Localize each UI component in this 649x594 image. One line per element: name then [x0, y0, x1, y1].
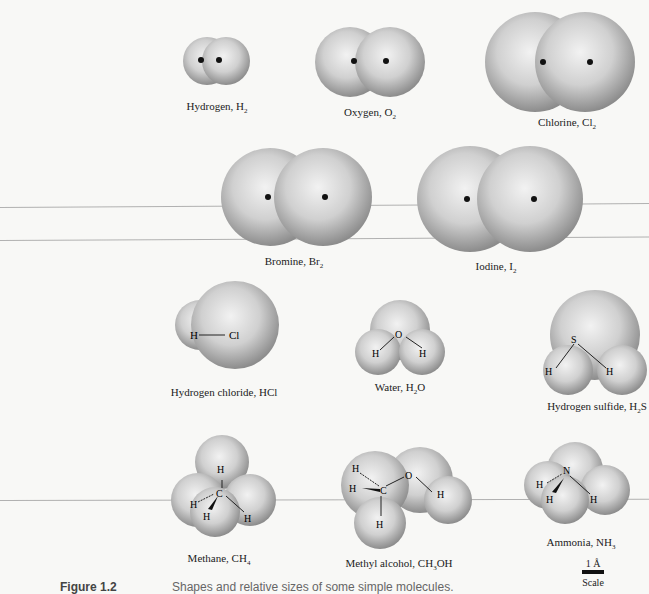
scale-indicator: 1 Å Scale: [578, 558, 608, 588]
svg-text:H: H: [546, 494, 553, 505]
svg-text:Cl: Cl: [229, 329, 239, 341]
label-iodine: Iodine, I2: [476, 260, 517, 275]
methane-molecule: HC HHH: [171, 435, 276, 537]
svg-text:H: H: [376, 519, 383, 530]
oxygen-molecule: [315, 27, 425, 97]
ammonia-molecule: NH HH: [524, 442, 630, 524]
svg-text:H: H: [590, 494, 597, 505]
svg-text:N: N: [563, 465, 570, 476]
svg-text:H: H: [203, 511, 210, 522]
hydrogen-sulfide-molecule: SHH: [543, 290, 647, 395]
scale-label: Scale: [578, 577, 608, 588]
label-water: Water, H2O: [375, 381, 425, 396]
chlorine-molecule: [485, 12, 635, 112]
svg-text:S: S: [571, 334, 577, 345]
svg-text:H: H: [372, 348, 379, 359]
svg-text:C: C: [216, 488, 223, 499]
svg-text:H: H: [217, 464, 224, 475]
svg-text:H: H: [352, 463, 359, 474]
iodine-molecule: [417, 146, 583, 252]
water-molecule: OHH: [355, 300, 445, 375]
svg-text:H: H: [349, 483, 356, 494]
svg-text:H: H: [419, 348, 426, 359]
molecules-illustration: H Cl OHH SHH HC HHH HHC: [0, 0, 649, 560]
svg-text:H: H: [190, 499, 197, 510]
bromine-molecule: [221, 148, 372, 246]
svg-text:O: O: [405, 470, 412, 481]
svg-text:H: H: [190, 329, 198, 341]
svg-text:H: H: [536, 479, 543, 490]
figure-caption: Shapes and relative sizes of some simple…: [172, 580, 453, 594]
label-hydrogen-sulfide: Hydrogen sulfide, H2S: [547, 400, 647, 415]
label-oxygen: Oxygen, O2: [344, 106, 396, 121]
label-methyl-alcohol: Methyl alcohol, CH3OH: [345, 557, 452, 572]
scale-bar: [582, 570, 604, 574]
svg-text:H: H: [244, 513, 251, 524]
label-bromine: Bromine, Br2: [265, 255, 324, 270]
label-methane: Methane, CH4: [188, 552, 251, 567]
label-hydrogen: Hydrogen, H2: [187, 100, 248, 115]
hydrogen-molecule: [183, 37, 250, 85]
svg-text:H: H: [606, 366, 613, 377]
label-hydrogen-chloride: Hydrogen chloride, HCl: [171, 386, 278, 398]
svg-text:C: C: [380, 485, 387, 496]
methyl-alcohol-molecule: HHC OHH: [341, 447, 472, 549]
figure-number: Figure 1.2: [60, 580, 117, 594]
label-ammonia: Ammonia, NH3: [547, 536, 616, 551]
scale-value: 1 Å: [578, 558, 608, 569]
svg-text:H: H: [545, 366, 552, 377]
svg-text:O: O: [395, 329, 402, 340]
label-chlorine: Chlorine, Cl2: [538, 116, 596, 131]
hydrogen-chloride-molecule: H Cl: [175, 281, 279, 369]
svg-text:H: H: [437, 489, 444, 500]
